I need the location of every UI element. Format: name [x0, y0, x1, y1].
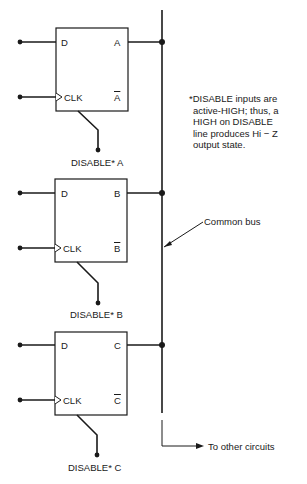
ff-c-qbar-label: C — [114, 395, 121, 406]
note-line: output state. — [189, 139, 307, 151]
ff-a-d-label: D — [61, 37, 68, 48]
disable-note: *DISABLE inputs are active-HIGH; thus, a… — [189, 93, 307, 151]
note-line: line produces Hi − Z — [189, 128, 307, 140]
ff-a-qbar-label: A — [114, 92, 120, 103]
other-circuits-label: To other circuits — [208, 441, 275, 452]
common-bus-label: Common bus — [204, 216, 261, 227]
schematic-lines — [0, 0, 307, 484]
ff-c-clk-label: CLK — [63, 395, 81, 406]
disable-b-label: DISABLE* B — [70, 309, 123, 320]
ff-a-clk-label: CLK — [64, 92, 82, 103]
ff-b-qbar-label: B — [114, 243, 120, 254]
ff-b-clk-label: CLK — [63, 243, 81, 254]
ff-c-d-label: D — [61, 340, 68, 351]
ff-b-q-label: B — [114, 188, 120, 199]
disable-a-label: DISABLE* A — [71, 157, 123, 168]
note-line: *DISABLE inputs are — [189, 93, 307, 105]
ff-b-d-label: D — [61, 188, 68, 199]
ff-a-q-label: A — [114, 37, 120, 48]
ff-c-q-label: C — [114, 340, 121, 351]
disable-c-label: DISABLE* C — [68, 462, 121, 473]
note-line: active-HIGH; thus, a — [189, 105, 307, 117]
note-line: HIGH on DISABLE — [189, 116, 307, 128]
